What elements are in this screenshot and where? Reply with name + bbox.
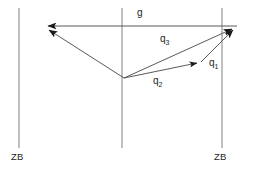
reference-lines	[19, 8, 222, 148]
vector-diagram-canvas	[0, 0, 257, 173]
label-q1: q1	[209, 58, 218, 68]
vector-q3-arrow	[124, 29, 232, 78]
label-zb-left: ZB	[11, 152, 24, 162]
vector-left-leg-arrow	[49, 30, 124, 78]
label-g: g	[137, 8, 143, 18]
vector-arrows	[48, 26, 237, 78]
label-zb-left-text: ZB	[11, 151, 24, 162]
vector-diagram-figure: g q3 q1 q2 ZB ZB	[0, 0, 257, 173]
label-q1-subscript: 1	[215, 63, 219, 70]
label-g-text: g	[137, 7, 143, 18]
label-q3-subscript: 3	[166, 39, 170, 46]
label-zb-right: ZB	[214, 152, 227, 162]
label-q3: q3	[160, 34, 169, 44]
label-zb-right-text: ZB	[214, 151, 227, 162]
label-q2-subscript: 2	[159, 81, 163, 88]
label-q2: q2	[153, 76, 162, 86]
